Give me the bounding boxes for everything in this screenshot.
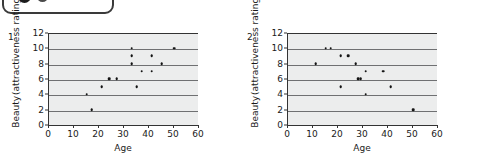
x-tick-label: 20	[331, 130, 342, 139]
y-tick-mark	[45, 33, 48, 34]
x-tick-label: 40	[381, 130, 392, 139]
data-point	[173, 47, 176, 50]
y-tick-label: 4	[267, 90, 283, 99]
scatter-plot-pair: 1Beauty(attractiveness rating)0246810120…	[0, 28, 478, 157]
y-tick-mark	[284, 33, 287, 34]
data-point	[347, 55, 350, 58]
x-tick-mark	[73, 125, 74, 128]
x-tick-label: 0	[45, 130, 51, 139]
data-point	[90, 108, 93, 111]
y-axis-label-line1: Beauty	[250, 96, 260, 128]
y-tick-mark	[284, 63, 287, 64]
y-tick-mark	[45, 79, 48, 80]
data-point	[140, 70, 143, 73]
x-tick-mark	[312, 125, 313, 128]
x-tick-mark	[98, 125, 99, 128]
filled-circle-small-icon	[37, 0, 48, 2]
y-tick-label: 0	[267, 121, 283, 130]
gridline	[288, 49, 437, 50]
scatter-panel-1: 1Beauty(attractiveness rating)0246810120…	[0, 28, 239, 157]
data-point	[324, 47, 327, 50]
x-tick-label: 30	[356, 130, 367, 139]
gridline	[49, 65, 198, 66]
plot-area-wrapper: 0246810120102030405060	[48, 33, 198, 125]
x-tick-mark	[387, 125, 388, 128]
x-tick-label: 40	[142, 130, 153, 139]
y-tick-label: 10	[28, 44, 44, 53]
panel-number: 2	[247, 32, 253, 42]
x-tick-mark	[198, 125, 199, 128]
data-point	[150, 55, 153, 58]
x-tick-mark	[48, 125, 49, 128]
data-point	[382, 70, 385, 73]
data-point	[85, 93, 88, 96]
data-point	[108, 78, 111, 81]
y-tick-mark	[45, 48, 48, 49]
panel-number: 1	[8, 32, 14, 42]
x-tick-label: 50	[167, 130, 178, 139]
data-point	[314, 62, 317, 65]
y-tick-label: 0	[28, 121, 44, 130]
filled-circle-large-icon	[18, 0, 31, 3]
plot-area	[48, 33, 198, 125]
data-point	[135, 85, 138, 88]
gridline	[288, 80, 437, 81]
y-tick-label: 4	[28, 90, 44, 99]
data-point	[130, 55, 133, 58]
gridline	[49, 95, 198, 96]
x-tick-mark	[412, 125, 413, 128]
y-tick-mark	[284, 94, 287, 95]
y-tick-label: 12	[28, 29, 44, 38]
x-tick-mark	[173, 125, 174, 128]
x-axis-label: Age	[287, 143, 437, 153]
data-point	[115, 78, 118, 81]
y-axis-label: Beauty(attractiveness rating)	[3, 18, 29, 104]
gridline	[288, 65, 437, 66]
plot-area	[287, 33, 437, 125]
data-point	[160, 62, 163, 65]
data-point	[359, 78, 362, 81]
y-tick-label: 2	[28, 105, 44, 114]
x-tick-label: 60	[431, 130, 442, 139]
x-tick-label: 50	[406, 130, 417, 139]
scatter-panel-2: 2Beauty(attractiveness rating)0246810120…	[239, 28, 478, 157]
y-tick-mark	[45, 109, 48, 110]
y-tick-label: 6	[28, 75, 44, 84]
data-point	[412, 108, 415, 111]
x-tick-mark	[337, 125, 338, 128]
x-tick-mark	[123, 125, 124, 128]
y-axis-label: Beauty(attractiveness rating)	[242, 18, 268, 104]
y-axis-label-line2: (attractiveness rating)	[250, 0, 260, 95]
y-tick-label: 8	[28, 59, 44, 68]
x-tick-mark	[148, 125, 149, 128]
x-tick-label: 10	[306, 130, 317, 139]
x-tick-mark	[362, 125, 363, 128]
data-point	[130, 47, 133, 50]
x-tick-label: 30	[117, 130, 128, 139]
plot-area-wrapper: 0246810120102030405060	[287, 33, 437, 125]
data-point	[354, 62, 357, 65]
gridline	[288, 95, 437, 96]
y-tick-label: 6	[267, 75, 283, 84]
gridline	[49, 49, 198, 50]
y-tick-label: 8	[267, 59, 283, 68]
cropped-toolbar-pill[interactable]	[2, 0, 114, 14]
y-axis-label-line2: (attractiveness rating)	[11, 0, 21, 95]
y-tick-mark	[284, 48, 287, 49]
x-tick-label: 60	[192, 130, 203, 139]
x-tick-mark	[287, 125, 288, 128]
data-point	[364, 93, 367, 96]
gridline	[288, 111, 437, 112]
x-tick-label: 0	[284, 130, 290, 139]
y-tick-mark	[45, 94, 48, 95]
data-point	[130, 62, 133, 65]
x-tick-label: 10	[67, 130, 78, 139]
y-tick-mark	[284, 79, 287, 80]
y-axis-label-line1: Beauty	[11, 96, 21, 128]
data-point	[150, 70, 153, 73]
x-tick-label: 20	[92, 130, 103, 139]
data-point	[329, 47, 332, 50]
y-tick-label: 12	[267, 29, 283, 38]
gridline	[49, 80, 198, 81]
y-tick-label: 2	[267, 105, 283, 114]
